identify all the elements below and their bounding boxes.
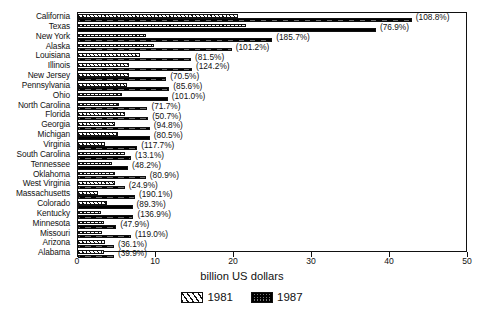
bar-1981	[78, 93, 122, 97]
bar-1987	[78, 166, 128, 170]
bar-1981	[78, 240, 105, 244]
bar-1981	[78, 201, 107, 205]
bar-1987	[78, 156, 131, 160]
x-axis-tick-labels: 01020304050	[0, 256, 484, 268]
bar-value-label: (108.8%)	[416, 13, 450, 23]
bar-group: (48.2%)	[78, 161, 466, 171]
bar-1987	[78, 87, 169, 91]
bar-1981	[78, 53, 140, 57]
bar-1987	[78, 186, 125, 190]
x-tick-label: 40	[384, 256, 394, 266]
bar-1981	[78, 24, 246, 28]
bar-1981	[78, 231, 102, 235]
bar-1987	[78, 245, 114, 249]
x-tick-label: 30	[306, 256, 316, 266]
bar-group: (94.8%)	[78, 121, 466, 131]
bar-1987	[78, 136, 150, 140]
legend-swatch-1981-icon	[181, 292, 203, 303]
bar-1987	[78, 48, 232, 52]
bar-groups: (108.8%)(76.9%)(185.7%)(101.2%)(81.5%)(1…	[78, 13, 466, 251]
bar-group: (80.9%)	[78, 171, 466, 181]
bar-value-label: (101.2%)	[236, 43, 270, 53]
bar-1981	[78, 211, 101, 215]
bar-1987	[78, 117, 148, 121]
bar-1981	[78, 14, 238, 18]
bar-1981	[78, 191, 98, 195]
bar-1981	[78, 103, 119, 107]
bar-1981	[78, 172, 115, 176]
x-axis-title: billion US dollars	[0, 270, 484, 282]
x-tick-label: 50	[462, 256, 472, 266]
bar-1981	[78, 221, 104, 225]
bar-1987	[78, 77, 166, 81]
bar-group: (70.5%)	[78, 72, 466, 82]
bar-1987	[78, 146, 137, 150]
bar-1987	[78, 127, 150, 131]
bar-group: (119.0%)	[78, 230, 466, 240]
bar-1981	[78, 73, 129, 77]
bar-group: (81.5%)	[78, 52, 466, 62]
bar-1987	[78, 176, 146, 180]
bar-group: (76.9%)	[78, 23, 466, 33]
chart-legend: 1981 1987	[0, 291, 484, 303]
bar-1981	[78, 142, 105, 146]
bar-group: (85.6%)	[78, 82, 466, 92]
bar-1981	[78, 63, 129, 67]
bar-1981	[78, 162, 112, 166]
bar-group: (71.7%)	[78, 102, 466, 112]
bar-1987	[78, 205, 133, 209]
bar-value-label: (124.2%)	[196, 62, 230, 72]
legend-label-1981: 1981	[207, 291, 233, 303]
bar-1981	[78, 152, 125, 156]
bar-1987	[78, 58, 191, 62]
bar-group: (101.0%)	[78, 92, 466, 102]
x-tick-label: 0	[75, 256, 80, 266]
bar-group: (24.9%)	[78, 180, 466, 190]
bar-1981	[78, 122, 115, 126]
bar-1987	[78, 195, 135, 199]
plot-area: (108.8%)(76.9%)(185.7%)(101.2%)(81.5%)(1…	[77, 12, 467, 252]
x-tick-label: 10	[150, 256, 160, 266]
bar-chart: CaliforniaTexasNew YorkAlaskaLouisianaIl…	[0, 0, 484, 317]
bar-1981	[78, 112, 125, 116]
bar-value-label: (185.7%)	[276, 33, 310, 43]
bar-1981	[78, 181, 115, 185]
legend-swatch-1987-icon	[251, 292, 273, 303]
bar-group: (185.7%)	[78, 33, 466, 43]
bar-group: (80.5%)	[78, 131, 466, 141]
legend-label-1987: 1987	[277, 291, 303, 303]
bar-1987	[78, 225, 116, 229]
bar-1987	[78, 235, 131, 239]
bar-1981	[78, 83, 127, 87]
bar-value-label: (76.9%)	[380, 23, 409, 33]
bar-group: (124.2%)	[78, 62, 466, 72]
bar-1987	[78, 28, 376, 32]
bar-group: (101.2%)	[78, 43, 466, 53]
bar-1981	[78, 132, 118, 136]
legend-item-1981: 1981	[181, 291, 233, 303]
x-tick-label: 20	[228, 256, 238, 266]
bar-1987	[78, 107, 147, 111]
bar-1987	[78, 18, 412, 22]
bar-1981	[78, 44, 154, 48]
category-axis-labels: CaliforniaTexasNew YorkAlaskaLouisianaIl…	[0, 12, 74, 258]
bar-1981	[78, 34, 146, 38]
bar-group: (50.7%)	[78, 111, 466, 121]
bar-group: (89.3%)	[78, 200, 466, 210]
legend-item-1987: 1987	[251, 291, 303, 303]
